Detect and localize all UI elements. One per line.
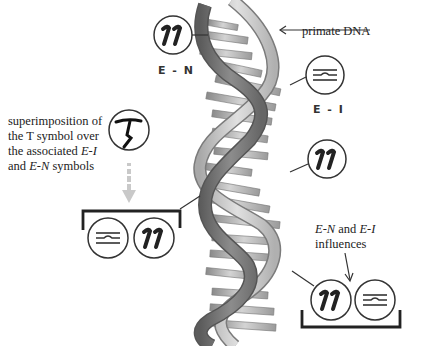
dna-diagram: primate DNA E - N E - I superimposition … [0, 0, 427, 346]
en-symbol-circle-left-group [134, 218, 174, 258]
primate-dna-label: primate DNA [302, 24, 370, 39]
connector-right-group [292, 271, 314, 286]
superimposition-caption: superimposition of the T symbol over the… [8, 114, 102, 174]
en-symbol-circle-right-group [311, 280, 351, 320]
ei-label: E - I [313, 103, 344, 116]
en-symbol-circle-mid [308, 140, 346, 178]
ei-symbol-circle-right-group [355, 280, 395, 320]
ei-symbol-circle-right [306, 56, 344, 94]
connector-ei-right [290, 77, 306, 85]
en-label: E - N [158, 64, 194, 77]
ei-symbol-circle-left-group [88, 218, 128, 258]
connector-left-group [180, 196, 200, 209]
en-symbol-circle-top [154, 16, 192, 54]
t-down-arrow [122, 163, 136, 203]
connector-en-mid [290, 164, 308, 172]
influences-caption: E-N and E-I influences [315, 222, 375, 252]
